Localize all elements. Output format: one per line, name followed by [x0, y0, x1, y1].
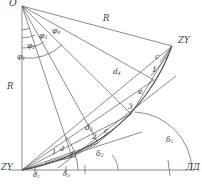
diagram-svg: [0, 0, 202, 188]
label-point-O: O: [9, 0, 17, 8]
label-delta1: δ1: [166, 136, 174, 145]
label-R-top: R: [103, 14, 109, 23]
label-c-upper: c: [155, 53, 159, 61]
axis-tick: [168, 160, 170, 176]
label-delta2: δ2: [96, 150, 104, 159]
label-d2: d2: [69, 152, 76, 159]
segment-chord-c3: [131, 46, 172, 114]
label-d1: d1: [33, 172, 40, 179]
label-point-2: 2: [92, 133, 97, 141]
angle-arc-phi2: [22, 35, 35, 38]
label-zy-top: ZY: [178, 36, 190, 45]
figure-canvas: O ZY ZY ЛД R R φ1 φ2 φ3 φ4 d4 d3 d d2 d1…: [0, 0, 202, 188]
label-phi2: φ2: [27, 42, 35, 51]
label-phi1: φ1: [17, 53, 25, 62]
label-d-plain: d: [60, 146, 64, 153]
label-phi3: φ3: [39, 32, 47, 41]
radius-ray-phi3: [22, 6, 131, 114]
angle-arc-delta1: [135, 112, 192, 170]
label-phi4: φ4: [52, 27, 60, 36]
label-delta3: δ3: [63, 171, 70, 178]
angle-arc-delta2: [112, 155, 118, 170]
angle-arc-phi1: [22, 28, 30, 30]
label-c-mid: c: [104, 127, 108, 135]
radius-ray-phi1: [22, 6, 72, 157]
label-d4: d4: [113, 68, 121, 77]
label-e: e: [138, 88, 142, 96]
label-point-1: 1: [52, 149, 56, 156]
label-point-3: 3: [128, 103, 133, 111]
label-zy-left: ZY: [1, 163, 13, 172]
chord-d3: [22, 114, 131, 170]
label-jd-end: ЛД: [186, 163, 200, 172]
label-R-left: R: [7, 82, 13, 91]
label-point-top1: 1: [152, 66, 157, 74]
